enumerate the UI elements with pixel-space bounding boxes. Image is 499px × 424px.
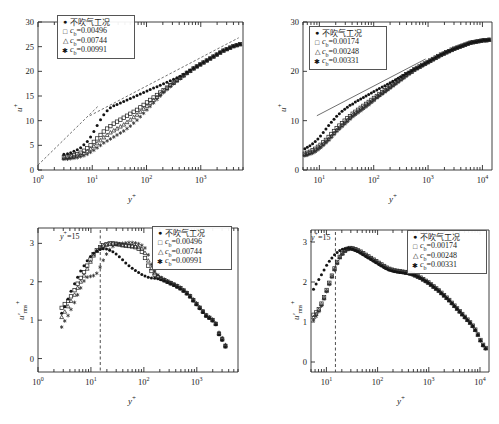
svg-text:10: 10	[291, 116, 300, 126]
asterisk-icon: ✱	[155, 259, 165, 266]
svg-text:15: 15	[26, 91, 35, 101]
legend-label: =0.00248	[427, 251, 458, 260]
svg-text:102: 102	[141, 174, 153, 185]
svg-text:0: 0	[303, 357, 307, 367]
legend-item: ✱ cb=0.00991	[60, 47, 131, 57]
svg-text:25: 25	[26, 42, 35, 52]
svg-text:3: 3	[30, 238, 34, 248]
panel-bottom-left: u'rms+ y+ y+=15 0123100101102103 ● 不吹气工况…	[0, 212, 249, 412]
filled-circle-icon: ●	[60, 19, 70, 26]
legend-label: =0.00496	[77, 26, 108, 35]
svg-text:0: 0	[295, 165, 299, 175]
legend-label: =0.00331	[329, 56, 360, 65]
svg-text:30: 30	[26, 17, 35, 27]
filled-circle-icon: ●	[155, 230, 165, 237]
open-triangle-icon: △	[410, 253, 420, 260]
svg-text:101: 101	[87, 174, 99, 185]
svg-text:101: 101	[314, 174, 326, 185]
legend-label: =0.00248	[329, 47, 360, 56]
svg-text:103: 103	[422, 174, 434, 185]
legend-item: ✱ cb=0.00331	[312, 58, 383, 68]
asterisk-icon: ✱	[312, 59, 322, 66]
svg-text:103: 103	[195, 174, 207, 185]
svg-text:20: 20	[26, 66, 35, 76]
svg-text:102: 102	[368, 174, 380, 185]
svg-text:100: 100	[32, 174, 44, 185]
legend-label: =0.00744	[172, 247, 203, 256]
legend-item: ✱ cb=0.00991	[155, 258, 228, 268]
svg-text:102: 102	[138, 376, 150, 387]
panel-bottom-right: u'rms+ y+ y+=15 0123101102103104 ● 不吹气工况…	[249, 212, 499, 412]
svg-text:101: 101	[85, 376, 97, 387]
legend-label: =0.00496	[172, 237, 203, 246]
svg-text:104: 104	[474, 376, 486, 387]
svg-text:101: 101	[321, 376, 333, 387]
svg-text:2: 2	[303, 277, 307, 287]
panel-top-left: u+ y+ 051015202530100101102103 ● 不吹气工况 □…	[0, 0, 249, 212]
open-triangle-icon: △	[312, 49, 322, 56]
svg-text:103: 103	[191, 376, 203, 387]
legend-top-right: ● 不吹气工况 □ cb=0.00174 △ cb=0.00248 ✱ cb=0…	[309, 26, 387, 70]
legend-label: =0.00331	[427, 260, 458, 269]
open-square-icon: □	[60, 29, 70, 36]
legend-label: =0.00174	[329, 37, 360, 46]
svg-text:100: 100	[32, 376, 44, 387]
svg-text:20: 20	[291, 66, 300, 76]
svg-text:0: 0	[30, 354, 34, 364]
open-square-icon: □	[155, 240, 165, 247]
legend-top-left: ● 不吹气工况 □ cb=0.00496 △ cb=0.00744 ✱ cb=0…	[57, 15, 135, 59]
legend-bottom-right: ● 不吹气工况 □ cb=0.00174 △ cb=0.00248 ✱ cb=0…	[407, 230, 487, 274]
filled-circle-icon: ●	[410, 234, 420, 241]
svg-text:5: 5	[30, 140, 34, 150]
svg-text:104: 104	[477, 174, 489, 185]
svg-text:10: 10	[26, 116, 35, 126]
legend-item: ✱ cb=0.00331	[410, 262, 483, 272]
svg-text:103: 103	[423, 376, 435, 387]
svg-text:3: 3	[303, 237, 307, 247]
legend-label: =0.00991	[172, 256, 203, 265]
svg-text:1: 1	[303, 317, 307, 327]
open-square-icon: □	[312, 40, 322, 47]
legend-label: =0.00744	[77, 36, 108, 45]
open-triangle-icon: △	[60, 38, 70, 45]
svg-text:1: 1	[30, 315, 34, 325]
open-square-icon: □	[410, 244, 420, 251]
panel-top-right: u+ y+ 0102030101102103104 ● 不吹气工况 □ cb=0…	[249, 0, 499, 212]
svg-text:2: 2	[30, 277, 34, 287]
filled-circle-icon: ●	[312, 30, 322, 37]
legend-bottom-left: ● 不吹气工况 □ cb=0.00496 △ cb=0.00744 ✱ cb=0…	[152, 226, 232, 270]
svg-text:0: 0	[30, 165, 34, 175]
legend-label: =0.00991	[77, 45, 108, 54]
asterisk-icon: ✱	[60, 48, 70, 55]
legend-label: =0.00174	[427, 241, 458, 250]
open-triangle-icon: △	[155, 249, 165, 256]
svg-text:30: 30	[291, 17, 300, 27]
svg-text:102: 102	[372, 376, 384, 387]
asterisk-icon: ✱	[410, 263, 420, 270]
